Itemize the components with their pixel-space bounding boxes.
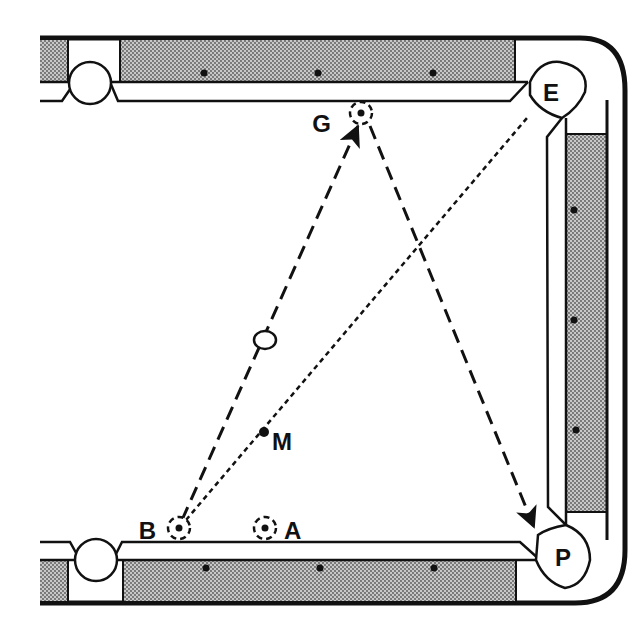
point-M: M — [259, 427, 292, 455]
path-B-to-E — [186, 118, 527, 520]
diamond-icon — [573, 427, 580, 434]
diamond-icon — [315, 70, 322, 77]
midpoint-dot — [259, 427, 269, 437]
top-side-pocket — [69, 62, 111, 104]
right-rail — [547, 100, 607, 540]
point-G: G — [312, 102, 372, 137]
point-B: B — [139, 517, 190, 544]
pocket-E: E — [530, 62, 586, 118]
top-rail — [40, 40, 528, 104]
open-ball — [254, 331, 276, 349]
bottom-rail — [40, 539, 540, 601]
path-G-to-P — [370, 126, 534, 527]
pocket-label-E: E — [543, 79, 559, 106]
table-frame — [40, 38, 625, 603]
right-rail-cushion — [566, 134, 607, 512]
point-A: A — [254, 517, 301, 544]
diamond-icon — [317, 565, 324, 572]
pocket-label-P: P — [555, 544, 571, 571]
billiard-diagram: E P G B A M — [0, 0, 639, 642]
ball-cue — [254, 331, 276, 349]
diamond-icon — [203, 565, 210, 572]
diamond-icon — [571, 317, 578, 324]
bottom-side-pocket — [75, 539, 117, 581]
shot-paths — [182, 118, 534, 527]
top-left-rail-stub — [40, 40, 68, 82]
bottom-left-rail-stub — [40, 560, 68, 601]
point-label-A: A — [284, 517, 301, 544]
diamond-icon — [430, 70, 437, 77]
pocket-P: P — [536, 525, 590, 588]
diamond-icon — [571, 207, 578, 214]
point-label-G: G — [312, 110, 331, 137]
path-B-to-G — [182, 126, 358, 520]
diamond-icon — [431, 565, 438, 572]
point-label-M: M — [272, 428, 292, 455]
point-label-B: B — [139, 517, 156, 544]
diamond-icon — [201, 70, 208, 77]
